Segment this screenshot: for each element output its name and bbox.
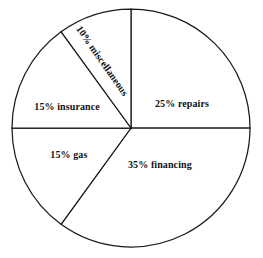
pie-chart: 25% repairs35% financing15% gas15% insur… (0, 0, 263, 258)
pie-chart-svg (0, 0, 263, 258)
pie-slice-label-repairs: 25% repairs (155, 99, 209, 109)
pie-slice-label-financing: 35% financing (128, 160, 192, 170)
pie-slice-label-gas: 15% gas (50, 150, 87, 160)
pie-slice-label-insurance: 15% insurance (34, 102, 99, 112)
pie-slice-repairs (131, 9, 250, 128)
